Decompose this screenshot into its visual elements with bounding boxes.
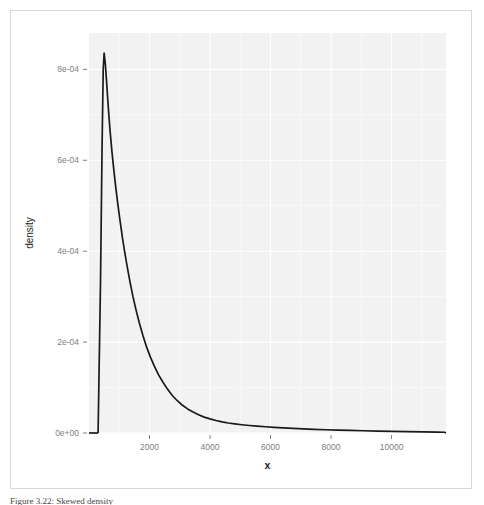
x-tick-label: 8000 [322, 442, 341, 452]
x-tick-label: 6000 [261, 442, 280, 452]
plot-root: 2000400060008000100000e+002e-044e-046e-0… [11, 11, 473, 490]
figure-frame: 2000400060008000100000e+002e-044e-046e-0… [10, 10, 472, 489]
y-tick-label: 2e-04 [57, 337, 79, 347]
x-axis-title: x [265, 459, 271, 471]
y-tick-label: 6e-04 [57, 155, 79, 165]
x-tick-label: 4000 [201, 442, 220, 452]
x-axis: 200040006000800010000 [140, 435, 404, 452]
y-axis: 0e+002e-044e-046e-048e-04 [55, 64, 87, 438]
x-tick-label: 2000 [140, 442, 159, 452]
y-tick-label: 8e-04 [57, 64, 79, 74]
density-chart: 2000400060008000100000e+002e-044e-046e-0… [11, 11, 473, 490]
y-tick-label: 0e+00 [55, 428, 79, 438]
x-tick-label: 10000 [380, 442, 404, 452]
y-tick-label: 4e-04 [57, 246, 79, 256]
chart-panel-background [89, 33, 446, 433]
figure-caption: Figure 3.22: Skewed density [10, 496, 430, 505]
y-axis-title: density [24, 217, 35, 249]
